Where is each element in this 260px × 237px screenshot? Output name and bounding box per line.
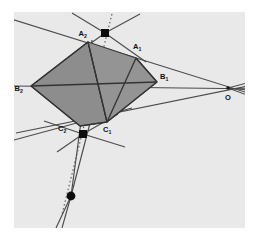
dot-o xyxy=(226,86,230,90)
marker-point-top xyxy=(101,29,109,37)
marker-point-lower xyxy=(79,130,87,138)
label-o: O xyxy=(225,93,231,102)
marker-point-bottom xyxy=(67,192,76,201)
vertex-dots xyxy=(226,86,230,90)
figure-panel xyxy=(14,12,245,228)
figure-canvas: A2 A1 B1 B2 C2 C1 O xyxy=(0,0,260,237)
geometry-figure: A2 A1 B1 B2 C2 C1 O xyxy=(0,0,260,237)
